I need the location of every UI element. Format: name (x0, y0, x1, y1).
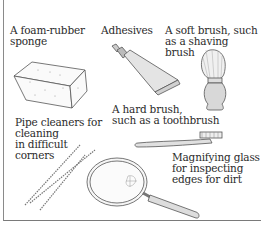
illustrations (0, 0, 261, 235)
pipe-cleaners-icon (25, 145, 95, 210)
shaving-brush-icon (201, 50, 225, 110)
magnifying-glass-icon (87, 158, 199, 218)
toothbrush-icon (135, 132, 222, 147)
sponge-icon (14, 62, 87, 108)
adhesive-tube-icon (112, 44, 180, 95)
